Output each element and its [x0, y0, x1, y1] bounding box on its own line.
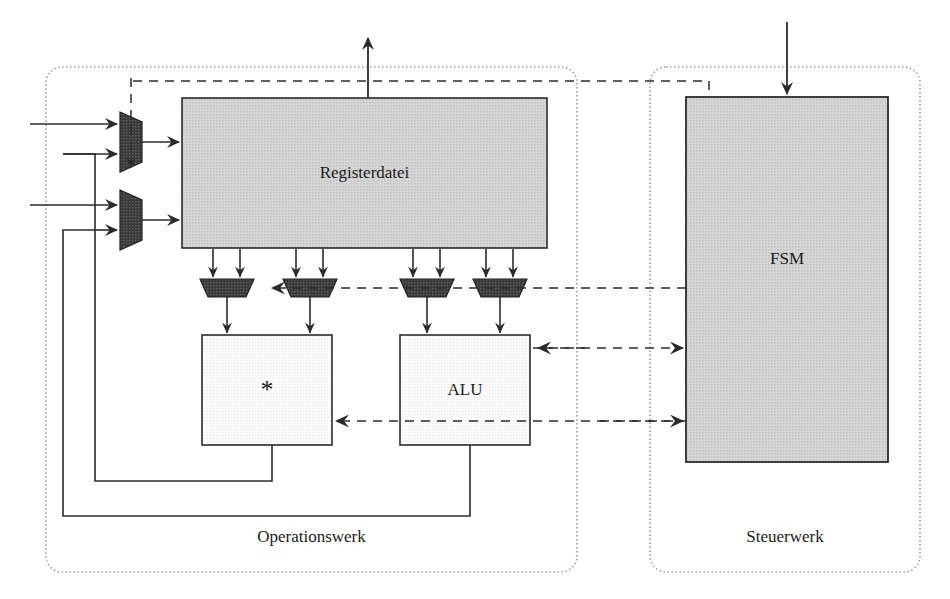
fsm-label: FSM	[686, 249, 888, 269]
alu-label: ALU	[400, 380, 530, 400]
steuerwerk-label: Steuerwerk	[650, 527, 920, 547]
operand-mux-a1	[200, 279, 254, 297]
registerdatei-label: Registerdatei	[182, 163, 547, 183]
block-fsm	[686, 97, 888, 462]
datapath-diagram	[0, 0, 950, 599]
control-bus-write-mux	[131, 81, 709, 90]
diagram-canvas: Registerdatei * ALU FSM Operationswerk S…	[0, 0, 950, 599]
operationswerk-label: Operationswerk	[46, 527, 577, 547]
write-port-mux-2	[120, 190, 142, 250]
multiplier-label: *	[202, 377, 332, 403]
register-read-ports	[213, 249, 513, 277]
